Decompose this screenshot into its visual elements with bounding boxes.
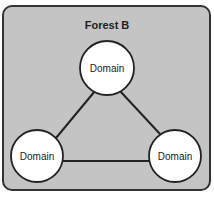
forest-diagram: Forest B Domain Domain Domain [0, 0, 214, 199]
domain-label-bottom-right: Domain [158, 151, 192, 162]
forest-title: Forest B [85, 19, 130, 31]
domain-label-bottom-left: Domain [20, 151, 54, 162]
domain-label-top: Domain [90, 63, 124, 74]
